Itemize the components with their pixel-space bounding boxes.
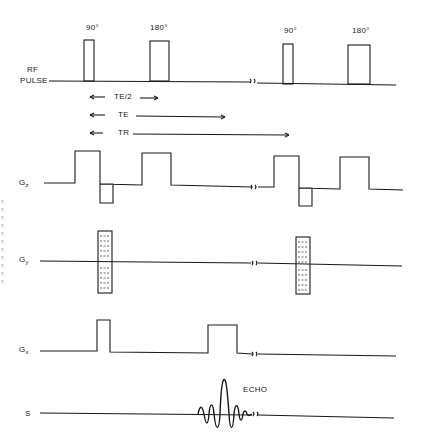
rf-row — [49, 40, 396, 85]
pulse-label-90-second: 90° — [284, 27, 297, 35]
rf-pulse-180-first — [150, 41, 169, 81]
pulse-sequence-diagram — [0, 0, 425, 446]
gx-row — [40, 320, 396, 356]
break-mark-icon — [251, 185, 256, 189]
gy-row — [40, 231, 402, 294]
rf-pulse-90-first — [84, 40, 94, 81]
gz-row — [44, 151, 403, 206]
signal-label: S — [25, 410, 31, 418]
break-mark-icon — [250, 79, 255, 83]
gx-label: Gx — [19, 346, 29, 355]
break-mark-icon — [252, 261, 257, 265]
rf-label-line1: RF — [27, 66, 38, 74]
break-mark-icon — [252, 352, 257, 356]
signal-row — [40, 379, 394, 427]
timing-label-te-half: TE/2 — [114, 93, 132, 101]
pulse-label-90-first: 90° — [86, 24, 99, 32]
pulse-label-180-second: 180° — [352, 27, 370, 35]
timing-label-tr: TR — [118, 129, 129, 137]
gy-label: Gy — [19, 256, 29, 265]
break-mark-icon — [253, 412, 258, 416]
rf-pulse-180-second — [348, 45, 370, 84]
phase-encode-gradient-second — [296, 237, 310, 294]
gz-label: Gz — [19, 179, 29, 188]
pulse-label-180-first: 180° — [150, 24, 168, 32]
timing-label-te: TE — [118, 111, 129, 119]
rf-pulse-90-second — [283, 44, 293, 84]
rf-label-line2: PULSE — [20, 77, 48, 85]
echo-label: ECHO — [243, 386, 267, 394]
